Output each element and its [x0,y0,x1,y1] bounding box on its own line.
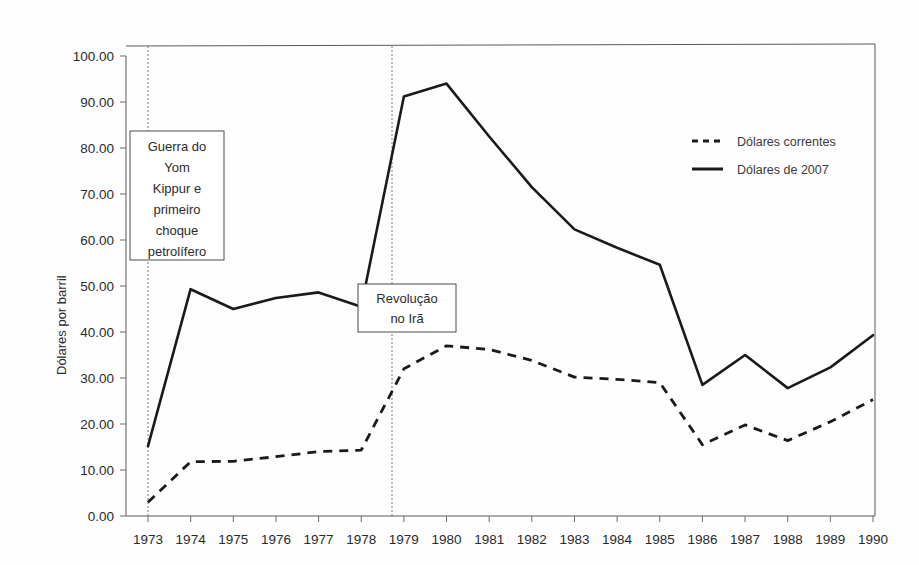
x-tick-label: 1982 [517,532,547,547]
annotation-line: petrolífero [148,244,207,259]
y-tick-label: 100.00 [73,49,114,64]
x-tick-label: 1984 [602,532,633,547]
y-tick-label: 30.00 [80,371,114,386]
x-tick-label: 1986 [687,532,717,547]
frame-top-line [126,44,875,46]
x-tick-label: 1976 [261,532,291,547]
x-tick-label: 1978 [346,532,376,547]
x-axis-ticks [148,516,873,522]
y-tick-label: 80.00 [80,141,114,156]
annotation-line: Guerra do [148,139,207,154]
x-tick-label: 1973 [133,532,163,547]
x-tick-label: 1990 [858,532,888,547]
x-tick-label: 1987 [730,532,760,547]
legend-label-dolares-de-2007: Dólares de 2007 [737,163,829,177]
x-tick-label: 1980 [432,532,462,547]
y-axis-title: Dólares por barril [54,275,69,375]
annotation-iran-revolution: Revolução no Irã [358,284,456,332]
annotation-line: Revolução [376,291,437,306]
y-tick-label: 40.00 [80,325,114,340]
x-tick-label: 1979 [389,532,419,547]
y-tick-label: 60.00 [80,233,114,248]
y-tick-label: 0.00 [88,509,114,524]
annotation-line: Kippur e [153,181,201,196]
oil-price-line-chart: 0.0010.0020.0030.0040.0050.0060.0070.008… [0,0,919,565]
y-axis-tick-labels: 0.0010.0020.0030.0040.0050.0060.0070.008… [73,49,114,524]
annotation-line: primeiro [154,202,201,217]
annotation-line: no Irã [390,311,424,326]
y-tick-label: 50.00 [80,279,114,294]
y-tick-label: 70.00 [80,187,114,202]
y-tick-label: 90.00 [80,95,114,110]
x-tick-label: 1981 [474,532,504,547]
chart-container: 0.0010.0020.0030.0040.0050.0060.0070.008… [0,0,919,565]
y-axis-ticks [120,56,126,516]
plot-frame [126,44,875,516]
annotation-line: choque [156,223,199,238]
x-tick-label: 1983 [559,532,589,547]
event-marker-lines [148,46,392,516]
annotation-yom-kippur: Guerra do Yom Kippur e primeiro choque p… [130,131,224,260]
y-tick-label: 10.00 [80,463,114,478]
x-tick-label: 1988 [773,532,803,547]
legend-label-dolares-correntes: Dólares correntes [737,135,836,149]
annotation-line: Yom [164,160,190,175]
x-axis-tick-labels: 1973197419751976197719781979198019811982… [133,532,888,547]
x-tick-label: 1985 [645,532,675,547]
x-tick-label: 1975 [218,532,248,547]
x-tick-label: 1989 [815,532,845,547]
x-tick-label: 1974 [176,532,207,547]
y-tick-label: 20.00 [80,417,114,432]
chart-legend: Dólares correntes Dólares de 2007 [692,135,836,177]
x-tick-label: 1977 [304,532,334,547]
